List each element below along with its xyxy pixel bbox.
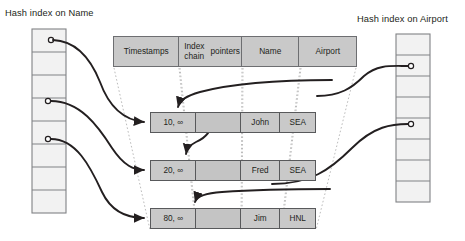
record-2-timestamps: 80, ∞	[151, 209, 196, 228]
hash-index-name-title: Hash index on Name	[5, 8, 94, 18]
legend-cell-name: Name	[242, 37, 300, 66]
legend-chain-line2: pointers	[210, 47, 240, 56]
hash-bucket-airport-4-dot	[408, 121, 413, 126]
record-2-airport: HNL	[280, 209, 315, 228]
table-row[interactable]: 20, ∞ Fred SEA	[150, 160, 316, 181]
guide-timestamps-left	[114, 68, 150, 230]
legend-chain-line1: Index chain	[180, 42, 208, 61]
record-1-name: Fred	[241, 161, 281, 180]
guide-name-right	[281, 68, 300, 230]
legend-cell-index-chain-pointers: Index chain pointers	[179, 37, 241, 66]
record-1-chain-pointer-cell[interactable]	[196, 161, 240, 180]
legend-cell-timestamps: Timestamps	[114, 37, 179, 66]
legend-cell-airport: Airport	[299, 37, 356, 66]
record-0-chain-pointer-cell[interactable]	[196, 113, 240, 132]
diagram-canvas: Hash index on Name Hash index on Airport…	[0, 0, 465, 241]
record-0-airport: SEA	[280, 113, 315, 132]
hash-bucket-airport-1-dot	[408, 63, 413, 68]
arrow-chain-into-record0	[178, 80, 332, 107]
record-0-timestamps: 10, ∞	[151, 113, 196, 132]
hash-bucket-name-3-dot	[45, 98, 50, 103]
hash-bucket-name-5-dot	[45, 136, 50, 141]
table-row[interactable]: 80, ∞ Jim HNL	[150, 208, 316, 229]
record-1-airport: SEA	[280, 161, 315, 180]
record-2-name: Jim	[241, 209, 281, 228]
hash-index-airport-column[interactable]	[396, 34, 430, 202]
table-row[interactable]: 10, ∞ John SEA	[150, 112, 316, 133]
arrow-chain-into-record2	[195, 189, 330, 202]
hash-index-airport-title: Hash index on Airport	[357, 14, 448, 24]
legend-guide-lines	[114, 68, 356, 230]
record-1-timestamps: 20, ∞	[151, 161, 196, 180]
hash-index-name-column[interactable]	[32, 29, 66, 213]
record-2-chain-pointer-cell[interactable]	[196, 209, 240, 228]
guide-airport-left	[282, 68, 301, 230]
record-0-name: John	[241, 113, 281, 132]
column-legend-row: Timestamps Index chain pointers Name Air…	[113, 36, 357, 67]
